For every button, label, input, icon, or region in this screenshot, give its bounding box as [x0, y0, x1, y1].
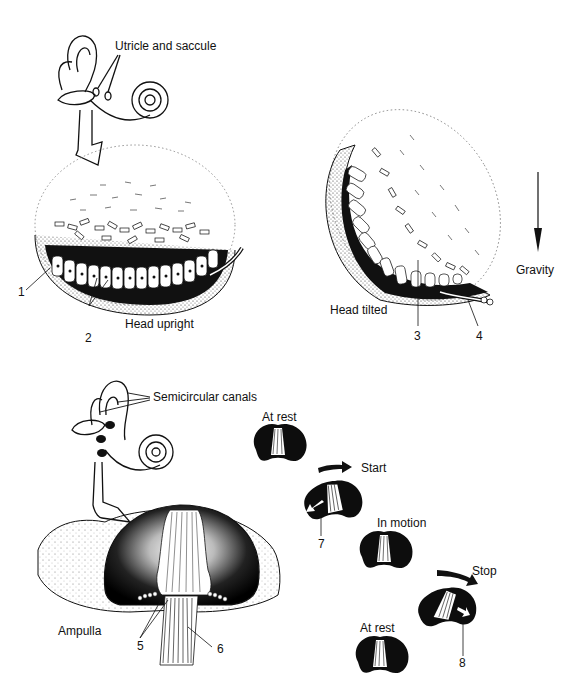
label-stop: Stop	[472, 565, 497, 577]
label-utricle-saccule: Utricle and saccule	[115, 40, 216, 52]
callout-2: 2	[85, 332, 92, 344]
callout-5: 5	[137, 640, 144, 652]
callout-3: 3	[414, 330, 421, 342]
label-in-motion: In motion	[377, 517, 426, 529]
label-ampulla: Ampulla	[58, 625, 101, 637]
arrow-down-icon	[76, 110, 102, 165]
ampulla-illustration	[38, 505, 280, 665]
label-head-tilted: Head tilted	[330, 304, 387, 316]
label-head-upright: Head upright	[125, 318, 194, 330]
gravity-arrow-icon	[534, 172, 542, 252]
cupula-at-rest-2	[356, 636, 409, 673]
callout-8: 8	[459, 657, 466, 669]
label-gravity: Gravity	[516, 264, 554, 276]
figure-artwork	[0, 0, 578, 699]
cupula-start	[304, 481, 362, 520]
cupula-stop	[418, 588, 476, 627]
callout-4: 4	[476, 330, 483, 342]
arrow-down-icon	[93, 462, 130, 522]
label-at-rest-2: At rest	[360, 622, 395, 634]
arrow-right-icon	[318, 461, 352, 473]
ampulla-dots	[96, 421, 115, 457]
callout-6: 6	[217, 643, 224, 655]
otolith-tilted-illustration	[296, 78, 535, 331]
callout-7: 7	[318, 538, 325, 550]
cupula-in-motion	[360, 531, 413, 568]
label-semicircular-canals: Semicircular canals	[153, 391, 257, 403]
label-at-rest-1: At rest	[262, 411, 297, 423]
callout-1: 1	[18, 286, 25, 298]
otolith-upright-illustration	[26, 145, 242, 315]
label-start: Start	[361, 462, 386, 474]
cupula-at-rest-1	[254, 424, 307, 461]
